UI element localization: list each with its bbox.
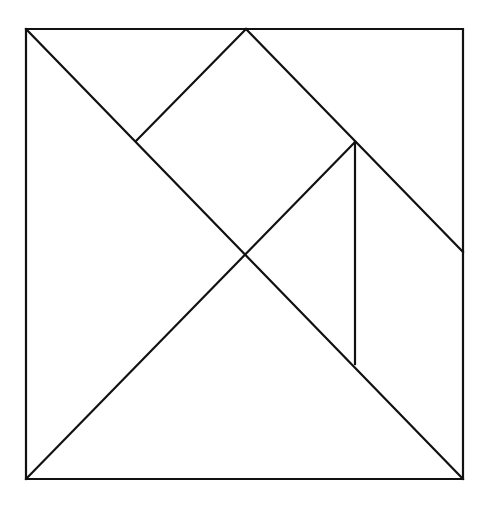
diagonal-secondary — [26, 142, 355, 479]
tangram-diagram — [0, 0, 481, 507]
tangram-svg — [0, 0, 481, 507]
square-top-left-edge — [136, 29, 246, 141]
